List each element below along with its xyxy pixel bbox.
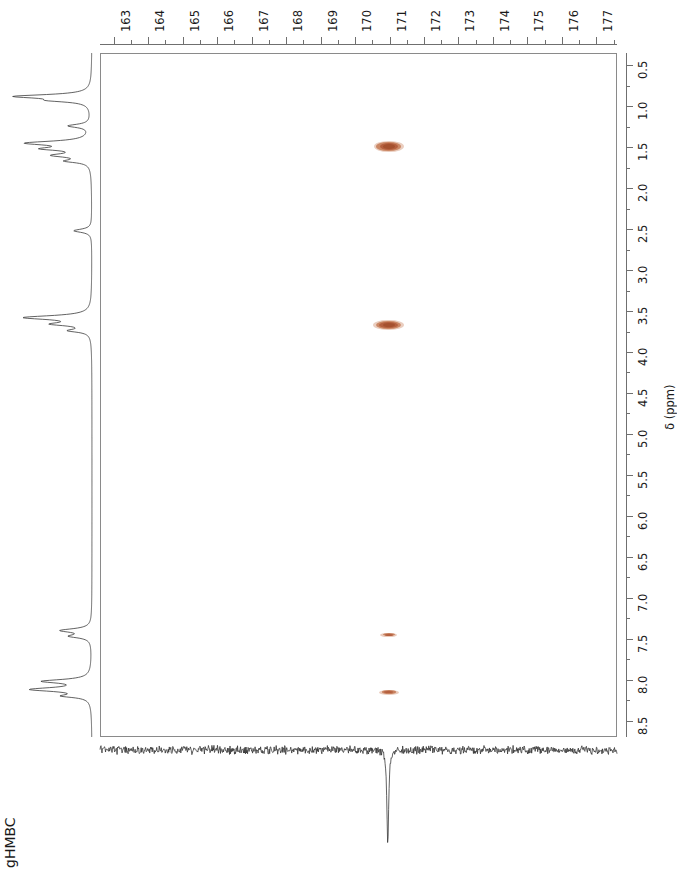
axis-title-proton: δ (ppm) [663,384,677,429]
proton-axis-tick-label: 5.0 [636,430,650,448]
proton-axis-tick-label: 1.0 [636,102,650,120]
carbon-axis-minor-tick [165,40,166,44]
proton-axis-minor-tick [626,291,630,292]
carbon-axis-minor-tick [614,40,615,44]
experiment-label: gHMBC [2,817,18,868]
proton-axis-tick-label: 8.0 [636,675,650,693]
proton-axis-tick-label: 8.5 [636,716,650,734]
proton-axis-tick [626,188,633,189]
carbon-axis-minor-tick [441,40,442,44]
carbon-axis-tick-label: 170 [360,10,374,32]
carbon-axis-tick-label: 172 [429,10,443,32]
carbon-axis-tick [286,37,287,44]
carbon-axis-tick [321,37,322,44]
carbon-axis-tick [355,37,356,44]
carbon-axis-tick-label: 169 [326,10,340,32]
carbon-axis-minor-tick [407,40,408,44]
carbon-axis-minor-tick [234,40,235,44]
proton-axis-tick-label: 1.5 [636,143,650,161]
carbon-axis-tick [252,37,253,44]
cross-peak-contour [385,634,393,636]
proton-axis-minor-tick [626,86,630,87]
carbon-axis-minor-tick [131,40,132,44]
carbon-axis-tick-label: 165 [188,10,202,32]
proton-axis-tick [626,475,633,476]
proton-axis-tick [626,721,633,722]
proton-axis-tick [626,598,633,599]
proton-axis-tick-label: 3.5 [636,307,650,325]
carbon-axis-tick [183,37,184,44]
proton-projection-trace [0,53,100,737]
proton-axis-minor-tick [626,495,630,496]
carbon-axis-tick [217,37,218,44]
carbon-axis-minor-tick [303,40,304,44]
proton-axis-tick [626,229,633,230]
proton-axis-tick [626,393,633,394]
carbon-axis-tick-label: 174 [498,10,512,32]
proton-axis-line [626,53,627,737]
carbon-axis-tick [390,37,391,44]
carbon-axis-minor-tick [372,40,373,44]
carbon-axis-tick [148,37,149,44]
carbon-axis-tick-label: 171 [395,10,409,32]
proton-axis-tick [626,352,633,353]
proton-axis-tick [626,516,633,517]
proton-axis-minor-tick [626,250,630,251]
proton-axis-tick-label: 3.0 [636,266,650,284]
proton-axis-minor-tick [626,577,630,578]
carbon-projection-path [100,745,617,842]
proton-axis-minor-tick [626,372,630,373]
proton-axis-minor-tick [626,127,630,128]
proton-projection-svg [0,53,100,737]
carbon-projection-trace [100,737,617,867]
proton-axis-tick-label: 4.0 [636,348,650,366]
proton-projection-path [13,53,92,737]
proton-axis-minor-tick [626,209,630,210]
proton-axis-minor-tick [626,168,630,169]
carbon-axis-tick-label: 168 [291,10,305,32]
cross-peak-contour [383,144,395,148]
proton-axis-tick [626,557,633,558]
proton-axis-minor-tick [626,700,630,701]
carbon-axis-line [100,44,617,45]
carbon-axis-tick [527,37,528,44]
cross-peak-2 [373,320,404,331]
proton-axis-tick [626,680,633,681]
proton-axis-tick-label: 0.5 [636,61,650,79]
carbon-axis-tick-label: 166 [222,10,236,32]
proton-axis-tick [626,311,633,312]
carbon-axis-minor-tick [545,40,546,44]
carbon-axis-minor-tick [510,40,511,44]
carbon-axis-minor-tick [338,40,339,44]
carbon-axis-minor-tick [200,40,201,44]
cross-peak-1 [374,141,404,152]
carbon-axis-tick [493,37,494,44]
carbon-axis-tick [114,37,115,44]
carbon-axis-minor-tick [579,40,580,44]
carbon-axis-tick-label: 163 [119,10,133,32]
proton-axis-tick [626,106,633,107]
proton-axis-minor-tick [626,413,630,414]
proton-axis-minor-tick [626,454,630,455]
proton-axis-minor-tick [626,659,630,660]
carbon-axis-tick-label: 176 [567,10,581,32]
carbon-axis-tick-label: 173 [463,10,477,32]
proton-axis-tick-label: 2.0 [636,184,650,202]
proton-axis-minor-tick [626,618,630,619]
proton-axis-tick [626,147,633,148]
proton-axis-tick-label: 7.0 [636,593,650,611]
proton-axis-tick [626,65,633,66]
proton-axis-minor-tick [626,536,630,537]
spectrum-plot-area[interactable] [100,53,617,737]
proton-axis-tick-label: 7.5 [636,634,650,652]
carbon-axis-tick [424,37,425,44]
carbon-axis-minor-tick [269,40,270,44]
proton-axis-tick-label: 4.5 [636,389,650,407]
cross-peak-4 [379,690,399,695]
carbon-axis-tick-label: 177 [601,10,615,32]
proton-axis-tick [626,639,633,640]
carbon-axis-tick-label: 167 [257,10,271,32]
proton-axis-tick-label: 6.5 [636,552,650,570]
proton-axis-tick-label: 6.0 [636,512,650,530]
